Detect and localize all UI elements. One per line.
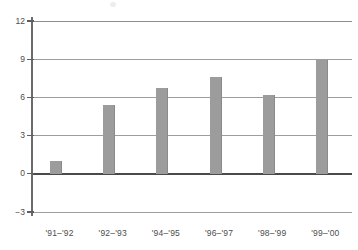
bar — [156, 88, 168, 173]
bar — [103, 105, 115, 174]
y-axis-label-9: 9 — [0, 54, 25, 64]
bar — [210, 77, 222, 174]
x-axis-label: '99–'00 — [285, 228, 358, 238]
bar — [263, 95, 275, 174]
y-axis-label--3: −3 — [0, 207, 25, 217]
y-axis-label-12: 12 — [0, 16, 25, 26]
bar — [316, 60, 328, 173]
scan-artifact-speck — [110, 2, 116, 7]
bar-chart: 129630−3 '91–'92'92–'93'94–'95'96–'97'98… — [0, 0, 358, 250]
bar — [50, 161, 62, 174]
y-axis-label-0: 0 — [0, 168, 25, 178]
y-axis-label-3: 3 — [0, 130, 25, 140]
plot-area — [33, 21, 352, 212]
y-axis-label-6: 6 — [0, 92, 25, 102]
